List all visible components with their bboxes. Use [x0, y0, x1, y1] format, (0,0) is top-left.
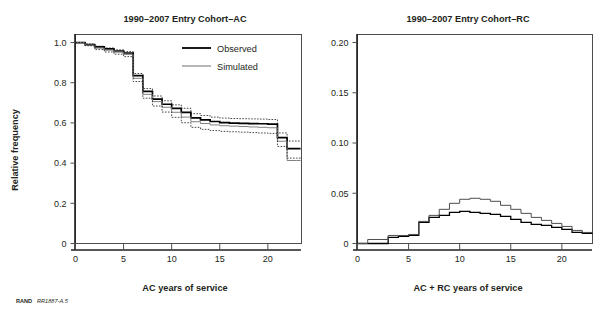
panel-rc-xaxis-title: AC + RC years of service	[413, 283, 522, 293]
x-tick-label: 15	[215, 254, 225, 264]
y-tick-label: 0.4	[54, 158, 67, 168]
x-tick-label: 20	[263, 254, 273, 264]
figure-credit: RAND RR1887-A.5	[16, 298, 69, 304]
y-tick-label: 0	[343, 239, 348, 249]
legend-label-observed: Observed	[217, 44, 257, 54]
y-tick-label: 0.6	[54, 118, 67, 128]
y-tick-label: 0.10	[331, 138, 349, 148]
panel-ac-xaxis-title: AC years of service	[142, 283, 227, 293]
x-tick-label: 10	[167, 254, 177, 264]
panel-ac-y-ticks: 00.20.40.60.81.0	[54, 38, 76, 249]
legend-label-simulated: Simulated	[217, 62, 258, 72]
credit-rand-label: RAND	[16, 298, 32, 304]
series-simulated-lower-ci	[76, 43, 301, 159]
panel-rc-title: 1990–2007 Entry Cohort–RC	[406, 14, 529, 24]
y-tick-label: 0	[61, 239, 66, 249]
x-tick-label: 20	[557, 254, 567, 264]
y-tick-label: 0.2	[54, 199, 67, 209]
panel-rc-y-axis: 00.050.100.150.20	[331, 34, 358, 250]
x-tick-label: 0	[355, 254, 360, 264]
series-observed	[358, 211, 593, 243]
series-simulated-upper-ci	[76, 43, 301, 141]
series-simulated	[76, 43, 301, 161]
panel-ac-x-ticks: 05101520	[73, 244, 273, 264]
series-observed	[76, 43, 301, 149]
panel-ac-title: 1990–2007 Entry Cohort–AC	[123, 14, 246, 24]
panel-rc-y-ticks: 00.050.100.150.20	[331, 38, 358, 249]
panel-ac-y-axis: 00.20.40.60.81.0	[54, 34, 76, 250]
y-tick-label: 0.05	[331, 189, 349, 199]
y-tick-label: 0.8	[54, 78, 67, 88]
series-simulated	[358, 198, 593, 243]
y-tick-label: 1.0	[54, 38, 67, 48]
x-tick-label: 10	[455, 254, 465, 264]
y-tick-label: 0.20	[331, 38, 349, 48]
panel-ac-series-group	[76, 43, 301, 161]
panel-rc-series-group	[358, 198, 593, 243]
panel-rc-x-axis: 05101520	[353, 244, 592, 264]
panel-ac-yaxis-title: Relative frequency	[10, 108, 20, 191]
y-tick-label: 0.15	[331, 88, 349, 98]
credit-report-id: RR1887-A.5	[37, 298, 69, 304]
panel-ac-legend: Observed Simulated	[182, 44, 258, 72]
panel-ac-x-axis: 05101520	[71, 244, 301, 264]
x-tick-label: 15	[506, 254, 516, 264]
figure-svg: 1990–2007 Entry Cohort–AC AC years of se…	[0, 0, 607, 326]
x-tick-label: 0	[73, 254, 78, 264]
panel-ac: 1990–2007 Entry Cohort–AC AC years of se…	[10, 14, 302, 293]
x-tick-label: 5	[121, 254, 126, 264]
figure-container: 1990–2007 Entry Cohort–AC AC years of se…	[0, 0, 607, 326]
panel-rc-x-ticks: 05101520	[355, 244, 567, 264]
x-tick-label: 5	[406, 254, 411, 264]
panel-rc: 1990–2007 Entry Cohort–RC AC + RC years …	[331, 14, 593, 293]
